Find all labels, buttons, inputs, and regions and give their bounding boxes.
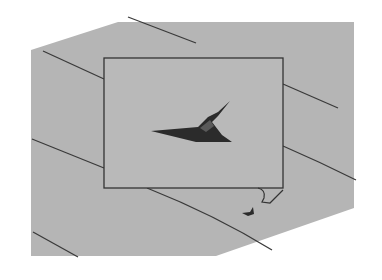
frame-panel — [104, 58, 283, 188]
drawing — [0, 0, 382, 280]
illustration-canvas — [0, 0, 382, 280]
